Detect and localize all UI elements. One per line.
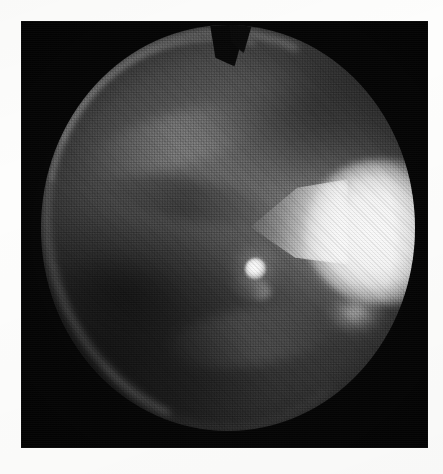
field-of-view-container: [21, 21, 428, 448]
figure-root: Grayscale circular endoscopic photograph…: [0, 0, 443, 474]
photo-plate: [21, 21, 428, 448]
circular-field-of-view: [41, 25, 415, 431]
